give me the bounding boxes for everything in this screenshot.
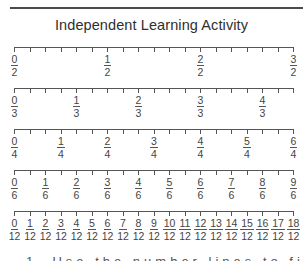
- denominator: 3: [253, 107, 273, 119]
- numerator: 0: [11, 136, 19, 148]
- numerator: 0: [11, 218, 19, 230]
- tick-mark: [107, 47, 108, 52]
- tick-mark: [76, 47, 77, 52]
- fraction-label: 12: [98, 53, 118, 78]
- denominator: 6: [67, 189, 87, 201]
- fraction-label: 33: [191, 94, 211, 119]
- numerator: 1: [57, 136, 65, 148]
- numerator: 5: [243, 136, 251, 148]
- tick-mark: [169, 47, 170, 52]
- tick-mark: [278, 47, 279, 52]
- tick-mark: [76, 170, 77, 175]
- fraction-label: 1812: [284, 217, 304, 242]
- numerator: 7: [119, 218, 127, 230]
- tick-mark: [278, 170, 279, 175]
- tick-mark: [185, 129, 186, 134]
- tick-mark: [107, 129, 108, 134]
- tick-mark: [293, 211, 294, 216]
- fraction-label: 36: [98, 176, 118, 201]
- tick-mark: [61, 47, 62, 52]
- numerator: 3: [104, 177, 112, 189]
- tick-mark: [231, 88, 232, 93]
- denominator: 3: [5, 107, 25, 119]
- tick-mark: [92, 47, 93, 52]
- fraction-label: 66: [191, 176, 211, 201]
- numerator: 8: [259, 177, 267, 189]
- fraction-label: 24: [98, 135, 118, 160]
- tick-mark: [293, 88, 294, 93]
- tick-mark: [216, 129, 217, 134]
- numerator: 3: [150, 136, 158, 148]
- tick-mark: [247, 211, 248, 216]
- tick-mark: [76, 129, 77, 134]
- numerator: 8: [135, 218, 143, 230]
- numerator: 2: [197, 54, 205, 66]
- numerator: 3: [290, 54, 298, 66]
- denominator: 6: [160, 189, 180, 201]
- denominator: 6: [98, 189, 118, 201]
- numerator: 6: [197, 177, 205, 189]
- tick-mark: [247, 47, 248, 52]
- tick-mark: [200, 170, 201, 175]
- tick-mark: [169, 129, 170, 134]
- tick-mark: [200, 47, 201, 52]
- tick-mark: [138, 47, 139, 52]
- denominator: 4: [284, 148, 304, 160]
- tick-mark: [123, 129, 124, 134]
- tick-mark: [262, 211, 263, 216]
- number-line-6ths: 06162636465666768696: [0, 170, 303, 210]
- numerator: 4: [197, 136, 205, 148]
- tick-mark: [45, 129, 46, 134]
- numerator: 6: [104, 218, 112, 230]
- tick-mark: [231, 47, 232, 52]
- tick-mark: [169, 211, 170, 216]
- fraction-label: 34: [144, 135, 164, 160]
- tick-mark: [185, 170, 186, 175]
- number-line-4ths: 04142434445464: [0, 129, 303, 169]
- numerator: 0: [11, 95, 19, 107]
- tick-mark: [247, 129, 248, 134]
- tick-mark: [92, 88, 93, 93]
- denominator: 4: [5, 148, 25, 160]
- tick-mark: [278, 211, 279, 216]
- tick-mark: [14, 88, 15, 93]
- tick-mark: [107, 170, 108, 175]
- fraction-label: 06: [5, 176, 25, 201]
- tick-mark: [200, 211, 201, 216]
- tick-mark: [169, 88, 170, 93]
- denominator: 3: [191, 107, 211, 119]
- number-line-2ths: 02122232: [0, 47, 303, 87]
- tick-mark: [14, 211, 15, 216]
- tick-mark: [247, 170, 248, 175]
- tick-mark: [262, 170, 263, 175]
- numerator: 0: [11, 177, 19, 189]
- tick-mark: [154, 129, 155, 134]
- tick-mark: [30, 88, 31, 93]
- tick-mark: [123, 47, 124, 52]
- tick-mark: [14, 47, 15, 52]
- tick-mark: [14, 129, 15, 134]
- tick-mark: [216, 211, 217, 216]
- tick-mark: [76, 211, 77, 216]
- tick-mark: [92, 129, 93, 134]
- tick-mark: [138, 129, 139, 134]
- tick-mark: [14, 170, 15, 175]
- denominator: 3: [67, 107, 87, 119]
- tick-mark: [138, 170, 139, 175]
- tick-mark: [92, 211, 93, 216]
- fraction-label: 64: [284, 135, 304, 160]
- numerator: 1: [42, 177, 50, 189]
- tick-mark: [293, 170, 294, 175]
- denominator: 4: [98, 148, 118, 160]
- numerator: 2: [42, 218, 50, 230]
- fraction-label: 13: [67, 94, 87, 119]
- tick-mark: [216, 47, 217, 52]
- tick-mark: [200, 129, 201, 134]
- tick-mark: [154, 47, 155, 52]
- number-line-3ths: 0313233343: [0, 88, 303, 128]
- denominator: 6: [253, 189, 273, 201]
- numerator: 2: [135, 95, 143, 107]
- fraction-label: 23: [129, 94, 149, 119]
- tick-mark: [154, 88, 155, 93]
- tick-mark: [262, 88, 263, 93]
